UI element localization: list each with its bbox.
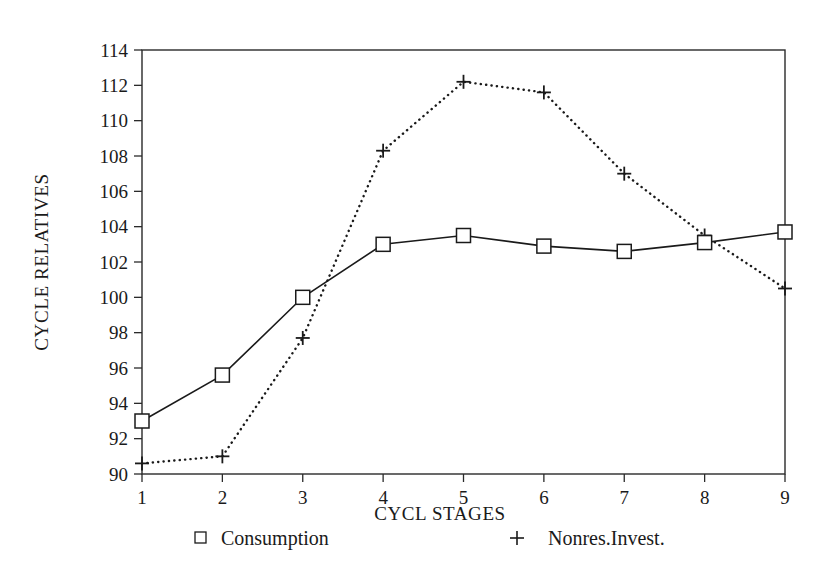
series-nonres-invest <box>135 75 792 471</box>
y-tick-label: 110 <box>100 110 128 131</box>
data-point-marker-square <box>215 368 229 382</box>
y-tick-label: 92 <box>109 428 128 449</box>
y-tick-label: 114 <box>100 40 128 61</box>
y-tick-label: 100 <box>100 287 129 308</box>
chart-figure: CYCLE RELATIVES CYCL STAGES 909294969810… <box>0 0 835 580</box>
series-consumption <box>135 225 792 428</box>
y-tick-label: 98 <box>109 322 128 343</box>
data-point-marker-square <box>457 229 471 243</box>
data-point-marker-square <box>617 244 631 258</box>
x-axis-ticks: 123456789 <box>137 474 790 508</box>
line-chart-svg: CYCLE RELATIVES CYCL STAGES 909294969810… <box>0 0 835 580</box>
data-point-marker-square <box>537 239 551 253</box>
data-point-marker-square <box>698 236 712 250</box>
x-tick-label: 8 <box>700 487 710 508</box>
legend-label-consumption: Consumption <box>221 527 329 550</box>
x-tick-label: 1 <box>137 487 147 508</box>
y-axis-title: CYCLE RELATIVES <box>31 173 52 350</box>
chart-legend: Consumption Nonres.Invest. <box>195 527 665 550</box>
legend-label-nonres-invest: Nonres.Invest. <box>548 527 665 549</box>
series-line <box>142 82 785 464</box>
x-tick-label: 4 <box>378 487 388 508</box>
x-tick-label: 6 <box>539 487 549 508</box>
data-point-marker-square <box>376 237 390 251</box>
y-tick-label: 94 <box>109 393 129 414</box>
y-tick-label: 102 <box>100 252 129 273</box>
y-tick-label: 104 <box>100 216 129 237</box>
data-point-marker-square <box>778 225 792 239</box>
data-point-marker-square <box>135 414 149 428</box>
x-tick-label: 9 <box>780 487 790 508</box>
x-tick-label: 2 <box>218 487 228 508</box>
x-tick-label: 5 <box>459 487 469 508</box>
y-tick-label: 106 <box>100 181 129 202</box>
data-point-marker-square <box>296 290 310 304</box>
legend-plus-icon <box>510 531 524 545</box>
y-tick-label: 112 <box>100 75 128 96</box>
x-axis-title: CYCL STAGES <box>374 503 506 524</box>
x-tick-label: 3 <box>298 487 308 508</box>
plot-frame <box>142 50 785 474</box>
legend-square-icon <box>195 532 206 543</box>
series-line <box>142 232 785 421</box>
y-tick-label: 90 <box>109 464 128 485</box>
y-tick-label: 96 <box>109 358 128 379</box>
y-tick-label: 108 <box>100 146 129 167</box>
x-tick-label: 7 <box>620 487 630 508</box>
